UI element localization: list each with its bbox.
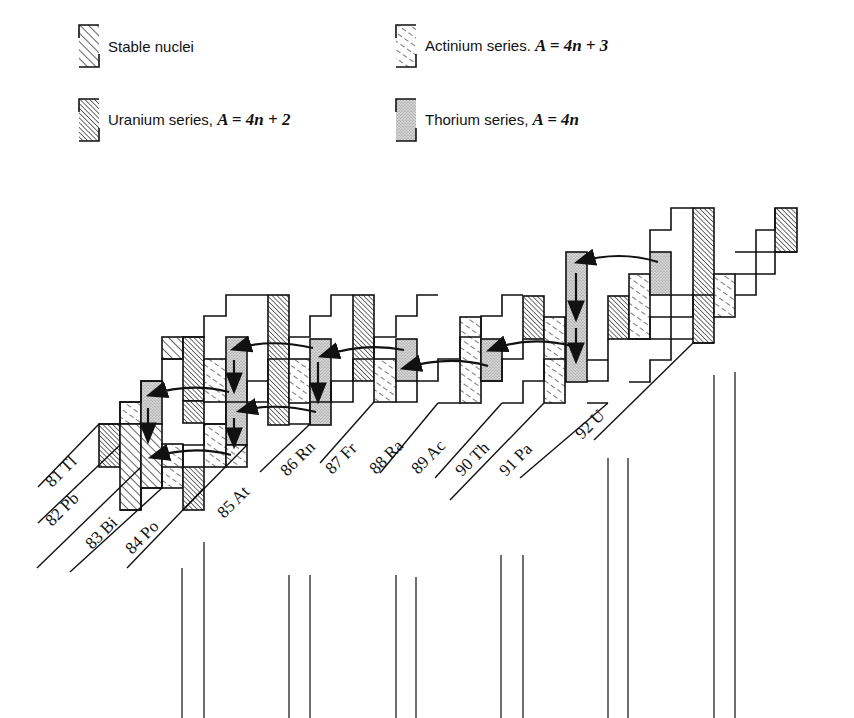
label-ac: 89 Ac [407, 436, 449, 478]
label-at: 85 At [213, 482, 253, 522]
label-tl: 81 Tl [41, 452, 80, 491]
vertical-lines [182, 372, 735, 718]
label-pa: 91 Pa [495, 439, 536, 480]
label-fr: 87 Fr [321, 438, 360, 477]
decay-series-diagram: 81 Tl 82 Pb 83 Bi 84 Po 85 At 86 Rn 87 F… [0, 0, 854, 718]
label-ra: 88 Ra [365, 436, 407, 478]
label-u: 92 U [571, 406, 608, 443]
label-rn: 86 Rn [276, 437, 319, 480]
label-pb: 82 Pb [41, 489, 82, 530]
label-th: 90 Th [451, 438, 493, 480]
